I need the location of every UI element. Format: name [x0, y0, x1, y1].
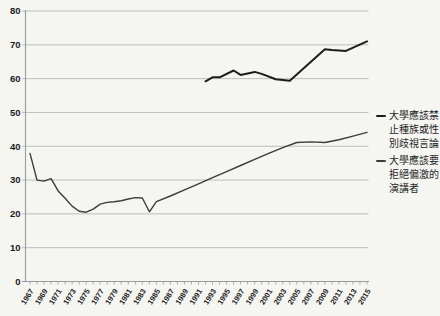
x-axis-label: 2011 — [328, 287, 345, 306]
x-axis-label: 2001 — [258, 287, 275, 307]
legend-label: 大學應該要 拒絕偏激的 演講者 — [389, 154, 439, 195]
legend-line-swatch — [376, 115, 386, 117]
series-line-0 — [206, 41, 368, 81]
x-axis-label: 2003 — [272, 287, 289, 306]
x-axis-label: 1981 — [117, 287, 134, 307]
x-axis-label: 1967 — [19, 287, 36, 306]
legend-label-line: 拒絕偏激的 — [389, 168, 439, 182]
x-axis-label: 2015 — [356, 287, 373, 307]
series-line-1 — [30, 132, 367, 212]
y-axis-label: 60 — [10, 73, 21, 84]
x-axis-label: 1995 — [216, 287, 233, 307]
x-axis-label: 1983 — [131, 287, 148, 306]
legend-item-ban-discriminatory-speech: 大學應該禁 止種族或性 別歧視言論 — [376, 109, 439, 150]
x-axis-label: 1987 — [160, 287, 177, 306]
x-axis-label: 1997 — [230, 287, 247, 306]
x-axis-label: 2009 — [314, 287, 331, 306]
x-axis-label: 1985 — [145, 287, 162, 307]
y-axis-label: 30 — [10, 174, 21, 185]
chart-figure: 0102030405060708019671969197119731975197… — [0, 0, 440, 316]
x-axis-label: 1971 — [47, 287, 64, 307]
y-axis-label: 80 — [10, 5, 21, 16]
x-axis-label: 1991 — [188, 287, 205, 307]
y-axis-label: 70 — [10, 39, 21, 50]
y-axis-label: 40 — [10, 141, 21, 152]
legend-label-line: 大學應該禁 — [389, 109, 439, 123]
y-axis-label: 50 — [10, 107, 21, 118]
x-axis-label: 1977 — [89, 287, 106, 306]
legend-label-line: 大學應該要 — [389, 154, 439, 168]
y-axis-label: 10 — [10, 242, 21, 253]
y-axis-label: 0 — [15, 276, 20, 287]
x-axis-label: 1993 — [202, 287, 219, 306]
legend-line-swatch — [376, 160, 386, 162]
chart-svg: 0102030405060708019671969197119731975197… — [0, 0, 440, 316]
legend-label-line: 別歧視言論 — [389, 137, 439, 151]
legend-label-line: 止種族或性 — [389, 123, 439, 137]
x-axis-label: 1989 — [174, 287, 191, 306]
legend-label: 大學應該禁 止種族或性 別歧視言論 — [389, 109, 439, 150]
x-axis-label: 2005 — [286, 287, 303, 307]
legend-label-line: 演講者 — [389, 182, 439, 196]
legend-item-refuse-extreme-speakers: 大學應該要 拒絕偏激的 演講者 — [376, 154, 439, 195]
x-axis-label: 1975 — [75, 287, 92, 307]
x-axis-label: 2013 — [342, 287, 359, 306]
x-axis-label: 1973 — [61, 287, 78, 306]
y-axis-label: 20 — [10, 208, 21, 219]
x-axis-label: 2007 — [300, 287, 317, 306]
x-axis-label: 1979 — [103, 287, 120, 306]
x-axis-label: 1969 — [33, 287, 50, 306]
chart-legend: 大學應該禁 止種族或性 別歧視言論 大學應該要 拒絕偏激的 演講者 — [376, 109, 439, 200]
x-axis-label: 1999 — [244, 287, 261, 306]
